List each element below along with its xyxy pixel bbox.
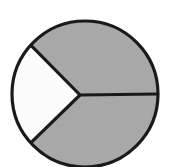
divider-right-line: [80, 94, 158, 95]
pie-fraction-figure: [0, 0, 174, 167]
pie-chart-svg: [0, 0, 174, 167]
